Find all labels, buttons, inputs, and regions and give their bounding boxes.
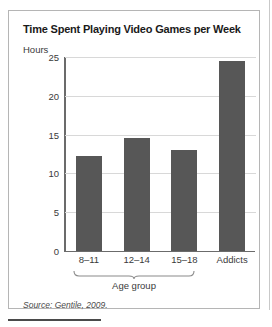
bar [219, 61, 245, 251]
y-axis-tick-label: 15 [48, 129, 59, 140]
bar [171, 150, 197, 251]
x-axis-category-label: Addicts [217, 254, 248, 265]
y-axis-tick-label: 5 [54, 207, 59, 218]
bottom-rule [8, 319, 101, 321]
source-note: Source: Gentile, 2009. [23, 300, 108, 310]
x-axis-category-label: 8–11 [79, 254, 99, 265]
gridline [65, 57, 256, 58]
bar [124, 138, 150, 251]
x-axis-category-label: 15–18 [171, 254, 197, 265]
chart-title: Time Spent Playing Video Games per Week [23, 23, 241, 35]
plot-area [65, 57, 256, 251]
y-axis-tick-label: 25 [48, 52, 59, 63]
y-axis-title: Hours [23, 44, 48, 55]
chart-figure-box: Time Spent Playing Video Games per Week … [8, 10, 260, 309]
y-axis-tick-label: 0 [54, 246, 59, 257]
x-axis-category-label: 12–14 [123, 254, 149, 265]
y-axis-line [64, 57, 66, 251]
age-group-label: Age group [112, 280, 156, 291]
x-axis-category-labels: 8–1112–1415–18Addicts [65, 254, 256, 268]
page-edge-line [269, 0, 270, 310]
bar [76, 156, 102, 251]
y-axis-tick-labels: 0510152025 [37, 57, 59, 251]
y-axis-tick-label: 20 [48, 90, 59, 101]
age-group-brace-icon [73, 270, 195, 279]
y-axis-tick-label: 10 [48, 168, 59, 179]
